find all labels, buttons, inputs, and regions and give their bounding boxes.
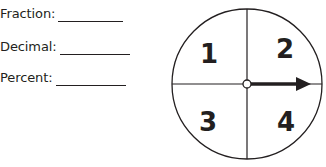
section-2-number: 2: [276, 34, 294, 64]
spinner: 1 2 3 4: [0, 0, 326, 167]
section-3-number: 3: [199, 107, 217, 137]
section-4-number: 4: [277, 107, 295, 137]
section-1-number: 1: [200, 39, 218, 69]
pivot-icon: [243, 80, 251, 88]
